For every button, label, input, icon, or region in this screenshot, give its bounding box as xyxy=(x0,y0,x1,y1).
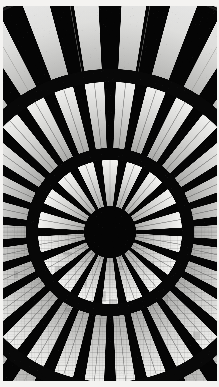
dome-photograph xyxy=(3,6,217,381)
image-subject: circular skylight rosette xyxy=(0,0,1,1)
image-title: Radial glass dome seen from below xyxy=(0,0,1,1)
photograph-frame: Radial glass dome seen from below circul… xyxy=(0,0,219,387)
image-medium: black and white photograph xyxy=(0,0,1,1)
